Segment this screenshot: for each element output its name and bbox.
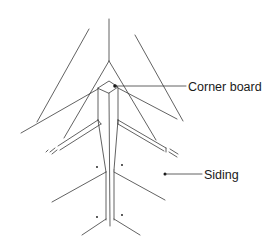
corner-board-diagram: Corner board Siding xyxy=(0,0,266,248)
siding-strip-left xyxy=(46,120,101,154)
corner-board xyxy=(98,81,118,226)
siding-strip-right xyxy=(118,120,178,157)
corner-board-leader xyxy=(113,84,186,88)
upper-framing-lines xyxy=(21,19,183,140)
siding-leader xyxy=(164,173,203,176)
siding-label: Siding xyxy=(204,168,239,182)
siding-courses xyxy=(52,172,165,235)
corner-board-label: Corner board xyxy=(188,80,262,94)
